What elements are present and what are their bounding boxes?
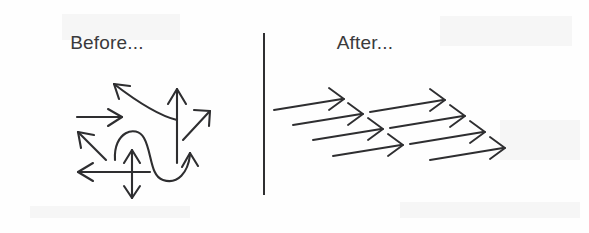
aligned-arrow-r4c2 bbox=[430, 137, 505, 160]
aligned-arrow-r4c1 bbox=[333, 134, 403, 156]
diagonal-up-left-arrow bbox=[78, 132, 106, 160]
aligned-arrow-r1c2 bbox=[370, 89, 445, 112]
aligned-arrow-r1c1 bbox=[274, 88, 344, 110]
aligned-arrow-r2c2 bbox=[390, 105, 465, 128]
vertical-double-headed-arrow bbox=[124, 150, 140, 198]
aligned-arrow-r3c2 bbox=[410, 121, 485, 144]
horizontal-right-arrow bbox=[77, 109, 122, 126]
after-panel: After... bbox=[265, 0, 589, 233]
curved-up-left-arrow bbox=[114, 84, 177, 120]
long-left-arrow bbox=[78, 163, 150, 181]
tall-vertical-up-arrow bbox=[168, 89, 186, 163]
diagram-canvas: Before... bbox=[0, 0, 589, 233]
aligned-arrow-r3c1 bbox=[313, 118, 383, 140]
aligned-arrow-r2c1 bbox=[293, 103, 363, 125]
after-arrows-artwork bbox=[265, 0, 589, 233]
diagonal-up-right-arrow bbox=[183, 110, 210, 140]
